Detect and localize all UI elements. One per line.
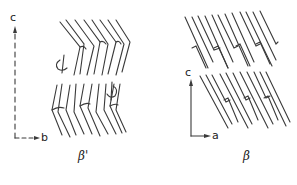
beta-axes — [189, 79, 211, 138]
diagram-canvas — [0, 0, 297, 185]
axis-label-c: c — [10, 12, 16, 23]
axis-label-b: b — [41, 132, 48, 143]
beta-prime-lower-layer — [52, 84, 126, 137]
beta-lower-layer — [200, 72, 290, 128]
beta-prime-axes — [13, 26, 40, 140]
axis-label-a: a — [212, 130, 219, 141]
axis-label-c: c — [185, 67, 191, 78]
beta-prime-upper-layer — [60, 20, 130, 75]
rotation-marker-icon — [56, 55, 116, 100]
panel-label-beta: β — [243, 150, 250, 162]
panel-label-beta-prime: β' — [78, 150, 88, 162]
beta-upper-layer — [185, 11, 278, 68]
